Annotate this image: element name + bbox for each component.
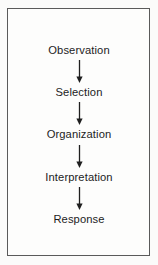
flow-step-label: Selection [56, 86, 103, 98]
flowchart: Observation Selection Organization [0, 0, 158, 265]
flow-step-label: Organization [47, 128, 112, 140]
flow-step-label: Response [53, 213, 104, 225]
flow-step-label: Observation [48, 44, 109, 56]
diagram-canvas: Observation Selection Organization [0, 0, 158, 265]
flow-step-observation: Observation [0, 44, 158, 56]
flow-step-selection: Selection [0, 86, 158, 98]
flow-step-response: Response [0, 213, 158, 225]
flow-step-organization: Organization [0, 128, 158, 140]
flow-step-interpretation: Interpretation [0, 171, 158, 183]
flow-step-label: Interpretation [45, 171, 112, 183]
